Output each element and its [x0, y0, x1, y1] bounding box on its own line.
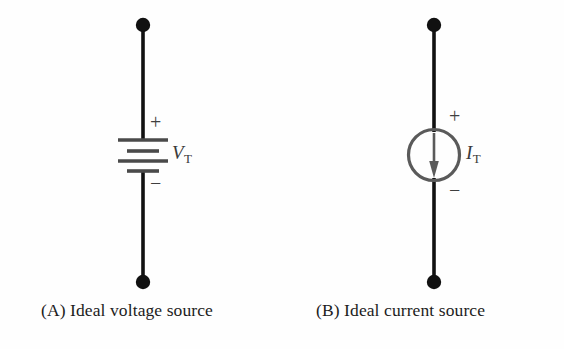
polarity-plus-a: +	[150, 112, 161, 132]
terminal-dot-top-b	[427, 18, 441, 32]
terminal-dot-bottom-a	[136, 275, 150, 289]
circuit-diagram	[0, 0, 564, 349]
current-label-subscript: T	[473, 151, 481, 166]
terminal-dot-bottom-b	[427, 275, 441, 289]
terminal-dot-top-a	[136, 18, 150, 32]
current-label-variable: I	[466, 142, 472, 163]
figure-canvas: + − + − VT IT (A) Ideal voltage source (…	[0, 0, 564, 349]
polarity-plus-b: +	[449, 106, 460, 126]
voltage-label-variable: V	[172, 142, 184, 163]
polarity-minus-b: −	[449, 180, 460, 200]
current-source-label: IT	[466, 142, 481, 167]
voltage-label-subscript: T	[184, 151, 192, 166]
current-arrow-head	[429, 161, 439, 178]
current-source-group	[409, 18, 460, 289]
caption-current-source: (B) Ideal current source	[316, 300, 485, 321]
voltage-source-label: VT	[172, 142, 192, 167]
voltage-source-group	[118, 18, 168, 289]
caption-voltage-source: (A) Ideal voltage source	[41, 300, 213, 321]
polarity-minus-a: −	[150, 173, 161, 193]
